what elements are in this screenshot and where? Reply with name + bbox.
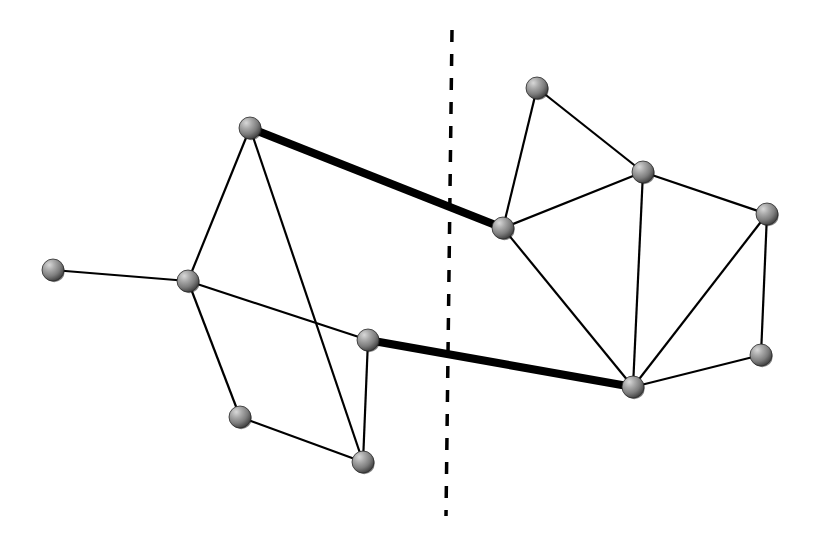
node-sphere[interactable]	[750, 344, 772, 366]
node-sphere[interactable]	[756, 203, 778, 225]
node-sphere[interactable]	[632, 161, 654, 183]
node-sphere[interactable]	[357, 329, 379, 351]
node-sphere[interactable]	[239, 117, 261, 139]
node-sphere[interactable]	[229, 406, 251, 428]
node-sphere[interactable]	[526, 77, 548, 99]
node-sphere[interactable]	[622, 376, 644, 398]
node-sphere[interactable]	[492, 217, 514, 239]
node-sphere[interactable]	[177, 270, 199, 292]
node-sphere[interactable]	[42, 259, 64, 281]
graph-diagram	[0, 0, 815, 555]
figure-background	[0, 0, 815, 555]
node-sphere[interactable]	[352, 451, 374, 473]
figure-root	[0, 0, 815, 555]
